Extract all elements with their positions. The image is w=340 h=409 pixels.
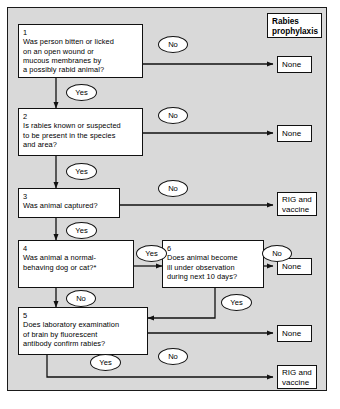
decision-number-3: 3 — [23, 192, 115, 201]
decision-text-1: Was person bitten or licked on an open w… — [23, 37, 138, 74]
edge-label-6-no: No — [262, 245, 292, 262]
outcome-rig-and-vaccine-2[interactable]: RIG and vaccine — [277, 365, 317, 389]
outcome-none-1[interactable]: None — [277, 56, 312, 73]
decision-node-5[interactable]: 5 Does laboratory examination of brain b… — [18, 307, 148, 355]
decision-number-4: 4 — [23, 244, 129, 253]
decision-number-2: 2 — [23, 112, 138, 121]
outcome-none-4[interactable]: None — [277, 325, 312, 342]
edge-label-1-no: No — [158, 36, 188, 53]
decision-node-6[interactable]: 6 Does animal become ill under observati… — [162, 240, 264, 288]
edge-label-5-no: No — [158, 348, 188, 365]
edge-label-4-yes: Yes — [136, 245, 167, 262]
decision-number-5: 5 — [23, 311, 143, 320]
decision-number-1: 1 — [23, 28, 138, 37]
edge-label-1-yes: Yes — [66, 84, 97, 101]
edge-label-6-yes: Yes — [221, 294, 252, 311]
outcome-none-2[interactable]: None — [277, 125, 312, 142]
decision-node-3[interactable]: 3 Was animal captured? — [18, 188, 120, 218]
decision-text-3: Was animal captured? — [23, 201, 115, 210]
decision-number-6: 6 — [167, 244, 259, 253]
decision-text-2: Is rabies known or suspected to be prese… — [23, 121, 138, 149]
flowchart-figure: Rabies prophylaxis 1 Was person bitten o… — [0, 0, 340, 409]
decision-text-4: Was animal a normal- behaving dog or cat… — [23, 253, 129, 271]
decision-text-5: Does laboratory examination of brain by … — [23, 320, 143, 348]
decision-node-1[interactable]: 1 Was person bitten or licked on an open… — [18, 24, 143, 78]
outcome-rig-and-vaccine-1[interactable]: RIG and vaccine — [277, 192, 317, 216]
edge-label-3-yes: Yes — [66, 222, 97, 239]
decision-text-6: Does animal become ill under observation… — [167, 253, 259, 281]
edge-label-5-yes: Yes — [90, 354, 121, 371]
edge-label-2-no: No — [158, 107, 188, 124]
edge-label-4-no: No — [66, 290, 96, 307]
decision-node-2[interactable]: 2 Is rabies known or suspected to be pre… — [18, 108, 143, 156]
edge-label-2-yes: Yes — [66, 163, 97, 180]
edge-label-3-no: No — [158, 180, 188, 197]
decision-node-4[interactable]: 4 Was animal a normal- behaving dog or c… — [18, 240, 134, 288]
rabies-prophylaxis-header: Rabies prophylaxis — [267, 13, 322, 38]
